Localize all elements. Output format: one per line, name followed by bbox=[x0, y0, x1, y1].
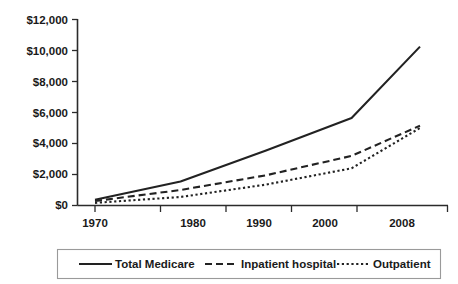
series-line-total-medicare bbox=[95, 47, 420, 200]
y-tick-label-4000: $4,000 bbox=[33, 137, 68, 149]
x-tick-label-2000: 2000 bbox=[312, 217, 338, 229]
legend-label-inpatient-hospital: Inpatient hospital bbox=[241, 258, 336, 270]
legend: Total Medicare Inpatient hospital Outpat… bbox=[58, 250, 441, 279]
y-tick-label-8000: $8,000 bbox=[33, 76, 68, 88]
x-tick-label-1980: 1980 bbox=[180, 217, 206, 229]
y-tick-label-6000: $6,000 bbox=[33, 107, 68, 119]
x-tick-label-1990: 1990 bbox=[246, 217, 272, 229]
legend-label-total-medicare: Total Medicare bbox=[115, 258, 195, 270]
x-tick-label-2008: 2008 bbox=[389, 217, 415, 229]
chart-canvas: $12,000 $10,000 $8,000 $6,000 $4,000 $2,… bbox=[0, 0, 458, 284]
y-tick-label-2000: $2,000 bbox=[33, 168, 68, 180]
series-lines bbox=[95, 47, 420, 203]
y-tick-label-12000: $12,000 bbox=[26, 14, 68, 26]
x-axis-tick-labels: 1970 1980 1990 2000 2008 bbox=[82, 217, 415, 229]
line-chart-figure: $12,000 $10,000 $8,000 $6,000 $4,000 $2,… bbox=[0, 0, 458, 284]
y-tick-label-0: $0 bbox=[55, 199, 68, 211]
y-axis-tick-labels: $12,000 $10,000 $8,000 $6,000 $4,000 $2,… bbox=[26, 14, 68, 211]
x-tick-label-1970: 1970 bbox=[82, 217, 108, 229]
series-line-outpatient bbox=[95, 128, 420, 203]
y-tick-label-10000: $10,000 bbox=[26, 45, 68, 57]
x-axis bbox=[78, 206, 449, 213]
y-axis bbox=[72, 19, 78, 206]
legend-label-outpatient: Outpatient bbox=[373, 258, 431, 270]
